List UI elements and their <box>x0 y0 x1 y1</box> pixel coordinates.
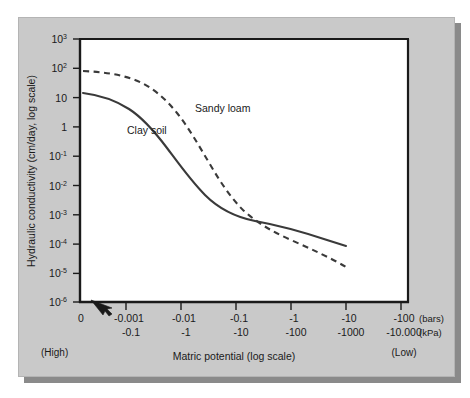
y-tick-exp-1em3: -3 <box>61 209 67 216</box>
y-tick-label-1e1: 10 <box>55 92 67 104</box>
y-tick-exp-1em2: -2 <box>61 180 67 187</box>
x-tick-label-kpa-1: -1 <box>181 326 190 338</box>
y-tick-exp-1e2: 2 <box>63 62 67 69</box>
y-tick-label-1e0: 1 <box>61 121 67 133</box>
x-tick-label-kpa-4: -1000 <box>338 326 365 338</box>
x-tick-label-origin: 0 <box>78 312 84 324</box>
x-unit-label-bars: (bars) <box>419 313 444 324</box>
hydraulic-conductivity-chart: 103 102 10 1 10-1 10-2 10-3 10-4 10-5 10… <box>19 18 456 378</box>
x-tick-label-bars-5: -100 <box>393 312 414 324</box>
y-tick-exp-1em6: -6 <box>61 296 67 303</box>
x-tick-label-bars-2: -0.1 <box>230 312 248 324</box>
y-tick-label-1em3: 10-3 <box>49 209 67 221</box>
x-tick-label-kpa-2: -10 <box>233 326 248 338</box>
y-tick-exp-1em4: -4 <box>61 238 67 245</box>
y-tick-label-1em6: 10-6 <box>49 296 67 308</box>
x-tick-label-kpa-5: -10.000 <box>386 326 422 338</box>
y-tick-label-1e3: 103 <box>51 33 67 45</box>
y-tick-label-1em1: 10-1 <box>49 150 67 162</box>
y-tick-label-1em4: 10-4 <box>49 238 67 250</box>
x-axis-low-end-label: (Low) <box>391 347 416 358</box>
x-axis-high-end-label: (High) <box>41 347 68 358</box>
y-tick-label-1e2: 102 <box>51 62 67 74</box>
x-tick-label-bars-0: -0.001 <box>114 312 144 324</box>
figure-root: 103 102 10 1 10-1 10-2 10-3 10-4 10-5 10… <box>0 0 470 398</box>
y-tick-label-1em2: 10-2 <box>49 180 67 192</box>
y-tick-exp-1em5: -5 <box>61 267 67 274</box>
y-axis-tick-labels: 103 102 10 1 10-1 10-2 10-3 10-4 10-5 10… <box>49 33 67 308</box>
figure-panel: 103 102 10 1 10-1 10-2 10-3 10-4 10-5 10… <box>18 17 455 377</box>
x-tick-label-bars-1: -0.01 <box>172 312 196 324</box>
x-unit-label-kpa: (kPa) <box>419 327 442 338</box>
series-label-sandy-loam: Sandy loam <box>195 102 251 114</box>
y-tick-exp-1em1: -1 <box>61 150 67 157</box>
y-tick-exp-1e3: 3 <box>63 33 67 40</box>
x-axis-tick-labels-bars: 0 -0.001 -0.01 -0.1 -1 -10 -100 (bars) <box>78 312 444 324</box>
x-tick-label-kpa-3: -100 <box>285 326 306 338</box>
series-label-clay-soil: Clay soil <box>127 124 167 136</box>
x-tick-label-bars-3: -1 <box>289 312 298 324</box>
x-tick-label-kpa-0: -0.1 <box>122 326 140 338</box>
x-axis-tick-labels-kpa: -0.1 -1 -10 -100 -1000 -10.000 (kPa) <box>122 326 442 338</box>
y-tick-label-1em5: 10-5 <box>49 267 67 279</box>
y-axis-title: Hydraulic conductivity (cm/day, log scal… <box>25 75 37 267</box>
x-axis-title: Matric potential (log scale) <box>173 350 296 362</box>
x-tick-label-bars-4: -10 <box>341 312 356 324</box>
